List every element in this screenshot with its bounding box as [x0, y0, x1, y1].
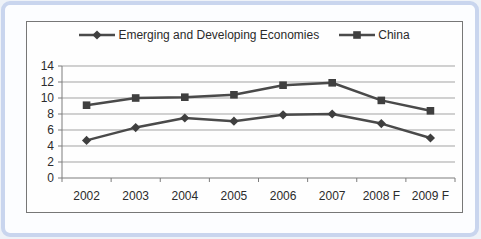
x-axis-label-1: 2003 — [122, 189, 149, 203]
data-point-square-2007 — [328, 79, 336, 87]
data-point-square-2009 F — [427, 107, 435, 115]
data-point-diamond-2004 — [180, 113, 189, 122]
data-point-diamond-2007 — [328, 109, 337, 118]
y-axis-label-8: 8 — [47, 107, 54, 121]
y-axis-label-14: 14 — [41, 59, 55, 73]
data-point-square-2003 — [132, 94, 140, 102]
y-axis-label-0: 0 — [47, 171, 54, 185]
data-point-diamond-2005 — [229, 117, 238, 126]
y-axis-label-4: 4 — [47, 139, 54, 153]
line-chart-plot: 024681012142002200320042005200620072008 … — [27, 22, 462, 212]
figure-card: Emerging and Developing EconomiesChina 0… — [1, 1, 479, 237]
data-point-diamond-2002 — [82, 136, 91, 145]
x-axis-label-0: 2002 — [73, 189, 100, 203]
data-point-square-2008 F — [378, 97, 386, 105]
data-point-square-2005 — [230, 91, 238, 99]
data-point-diamond-2003 — [131, 123, 140, 132]
x-axis-label-4: 2006 — [270, 189, 297, 203]
data-point-diamond-2006 — [278, 110, 287, 119]
x-axis-label-7: 2009 F — [412, 189, 449, 203]
x-axis-label-6: 2008 F — [363, 189, 400, 203]
y-axis-label-2: 2 — [47, 155, 54, 169]
x-axis-label-5: 2007 — [319, 189, 346, 203]
y-axis-label-10: 10 — [41, 91, 55, 105]
x-axis-label-2: 2004 — [171, 189, 198, 203]
data-point-square-2002 — [83, 101, 91, 109]
data-point-square-2004 — [181, 93, 189, 101]
data-point-square-2006 — [279, 81, 287, 89]
y-axis-label-6: 6 — [47, 123, 54, 137]
x-axis-label-3: 2005 — [221, 189, 248, 203]
data-point-diamond-2008 F — [377, 119, 386, 128]
data-point-diamond-2009 F — [426, 133, 435, 142]
chart-container: Emerging and Developing EconomiesChina 0… — [26, 21, 463, 213]
y-axis-label-12: 12 — [41, 75, 55, 89]
